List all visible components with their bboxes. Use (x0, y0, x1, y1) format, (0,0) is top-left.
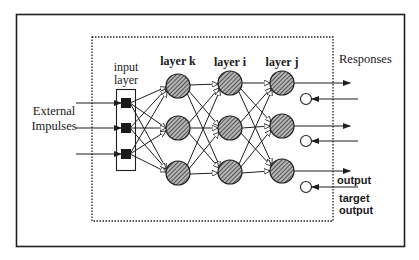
layer-j-node-3 (270, 159, 294, 183)
layer-k-node-1 (166, 74, 190, 98)
input-layer-line2: layer (108, 74, 144, 86)
connections-k-to-i (187, 84, 220, 174)
input-node-3 (121, 149, 131, 159)
layer-j-node-1 (270, 71, 294, 95)
external-impulse-arrows (76, 103, 121, 154)
target-output-label: target output (339, 193, 373, 216)
external-impulses-label: External Impulses (26, 105, 82, 132)
input-layer-line1: input (108, 61, 144, 73)
responses-label: Responses (339, 53, 392, 66)
layer-j-node-2 (270, 114, 294, 138)
layer-i-node-3 (218, 160, 242, 184)
layer-i-node-1 (218, 71, 242, 95)
layer-j-label: layer j (257, 56, 307, 68)
target-output-line2: output (339, 205, 373, 216)
external-impulses-line2: Impulses (26, 120, 82, 133)
layer-k-node-2 (166, 116, 190, 140)
target-output-line1: target (339, 193, 373, 204)
input-node-2 (121, 123, 131, 133)
input-layer-label: input layer (108, 61, 144, 86)
input-node-1 (121, 98, 131, 108)
input-layer-nodes (121, 98, 131, 159)
external-impulses-line1: External (26, 105, 82, 118)
neural-network-diagram: External Impulses input layer layer k la… (0, 0, 419, 260)
layer-i-label: layer i (205, 56, 255, 68)
target-node-3 (301, 182, 312, 193)
layer-i-node-2 (218, 116, 242, 140)
target-node-1 (301, 94, 312, 105)
layer-k-label: layer k (153, 55, 203, 67)
layer-i-nodes (218, 71, 242, 184)
layer-k-node-3 (166, 161, 190, 185)
layer-j-nodes (270, 71, 294, 183)
output-label: output (337, 175, 371, 186)
target-node-2 (301, 136, 312, 147)
connections-i-to-j (239, 83, 272, 173)
layer-k-nodes (166, 74, 190, 185)
